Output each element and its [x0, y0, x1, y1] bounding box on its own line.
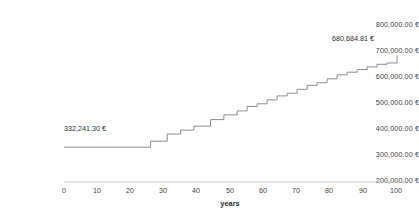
series-line-step [64, 55, 397, 147]
chart-container: 800,000.00 € 700,000.00 € 600,000.00 € 5… [0, 0, 419, 215]
plot-area [0, 0, 419, 215]
